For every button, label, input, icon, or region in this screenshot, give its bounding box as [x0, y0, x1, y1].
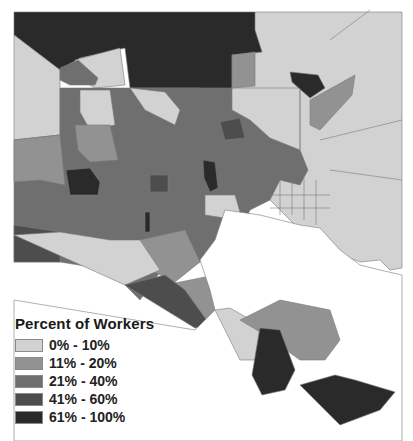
legend-label: 0% - 10% [49, 337, 110, 353]
legend: Percent of Workers 0% - 10% 11% - 20% 21… [15, 315, 154, 426]
legend-label: 11% - 20% [49, 355, 117, 371]
legend-item: 21% - 40% [15, 372, 154, 390]
region-41-60-b [150, 175, 168, 192]
legend-swatch [15, 375, 43, 388]
legend-item: 41% - 60% [15, 390, 154, 408]
legend-item: 61% - 100% [15, 408, 154, 426]
region-11-20-b [232, 52, 255, 88]
legend-label: 21% - 40% [49, 373, 117, 389]
legend-label: 41% - 60% [49, 391, 117, 407]
legend-label: 61% - 100% [49, 409, 125, 425]
legend-item: 0% - 10% [15, 336, 154, 354]
region-11-20-a [14, 135, 65, 185]
legend-item: 11% - 20% [15, 354, 154, 372]
legend-swatch [15, 357, 43, 370]
legend-swatch [15, 411, 43, 424]
legend-swatch [15, 393, 43, 406]
legend-title: Percent of Workers [15, 315, 154, 332]
region-61-100-d [145, 212, 150, 232]
legend-swatch [15, 339, 43, 352]
